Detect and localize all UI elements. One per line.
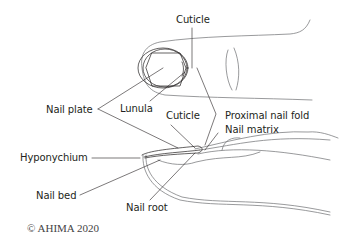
label-nail-bed: Nail bed xyxy=(36,190,76,202)
copyright-notice: © AHIMA 2020 xyxy=(27,222,99,234)
label-hyponychium: Hyponychium xyxy=(20,152,88,164)
label-nail-root: Nail root xyxy=(126,202,168,214)
label-proximal-nail-fold: Proximal nail fold xyxy=(225,110,309,122)
label-cuticle-side: Cuticle xyxy=(166,110,200,122)
label-cuticle-top: Cuticle xyxy=(176,14,210,26)
nail-side-view xyxy=(142,146,202,158)
finger-side-view xyxy=(143,132,338,215)
label-nail-plate: Nail plate xyxy=(46,104,93,116)
label-nail-matrix: Nail matrix xyxy=(225,124,279,136)
nail-anatomy-illustration xyxy=(0,0,355,244)
label-lunula: Lunula xyxy=(120,103,153,115)
